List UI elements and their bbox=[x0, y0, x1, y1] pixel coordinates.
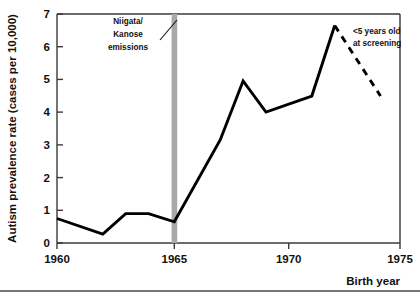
y-tick-label-0: 0 bbox=[44, 237, 50, 249]
x-tick-label-1965: 1965 bbox=[162, 253, 188, 265]
data-line-solid bbox=[57, 26, 335, 235]
x-axis-title: Birth year bbox=[346, 275, 400, 287]
y-tick-label-3: 3 bbox=[44, 139, 50, 151]
x-tick-label-1960: 1960 bbox=[44, 253, 70, 265]
screening-annotation-line-1: <5 years old bbox=[353, 27, 401, 36]
y-tick-label-2: 2 bbox=[44, 172, 50, 184]
screening-annotation: <5 years old at screening bbox=[353, 27, 401, 48]
y-axis-ticks bbox=[57, 14, 63, 243]
data-line-dashed bbox=[335, 26, 381, 97]
autism-prevalence-line-chart: 0 1 2 3 4 5 6 7 1960 1965 1970 1975 Auti… bbox=[0, 0, 420, 297]
y-axis-title: Autism prevalence rate (cases per 10,000… bbox=[6, 14, 18, 243]
y-tick-label-6: 6 bbox=[44, 41, 50, 53]
y-tick-label-7: 7 bbox=[44, 8, 50, 20]
x-tick-label-1970: 1970 bbox=[276, 253, 302, 265]
x-tick-label-1975: 1975 bbox=[387, 253, 413, 265]
emissions-annotation-line-2: Kanose bbox=[113, 30, 143, 39]
emissions-annotation-line-3: emissions bbox=[108, 43, 148, 52]
emissions-annotation: Niigata/ Kanose emissions bbox=[108, 17, 148, 52]
x-axis-ticks bbox=[57, 243, 400, 249]
emissions-marker-band bbox=[172, 14, 178, 243]
emissions-annotation-line-1: Niigata/ bbox=[113, 17, 143, 26]
y-tick-label-5: 5 bbox=[44, 73, 51, 85]
y-tick-label-4: 4 bbox=[44, 106, 51, 118]
y-tick-label-1: 1 bbox=[44, 204, 51, 216]
figure-container: 0 1 2 3 4 5 6 7 1960 1965 1970 1975 Auti… bbox=[0, 0, 420, 297]
screening-annotation-line-2: at screening bbox=[353, 39, 401, 48]
